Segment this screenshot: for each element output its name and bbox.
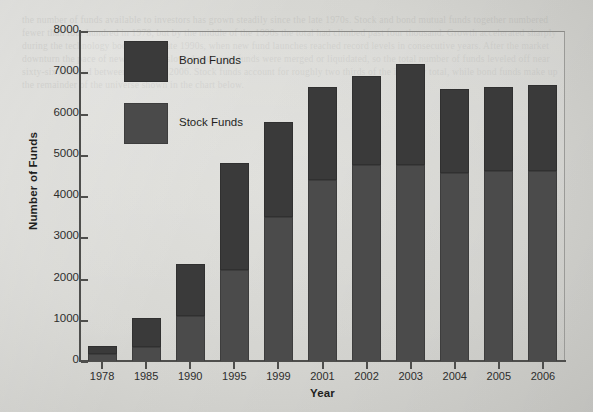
y-tick-label: 0 — [19, 353, 79, 365]
legend-swatch-bond-funds — [124, 41, 168, 82]
bar-stack[interactable] — [352, 76, 381, 361]
bar-segment-stock-funds[interactable] — [132, 347, 161, 361]
y-axis-title: Number of Funds — [27, 61, 39, 301]
bar-stack[interactable] — [484, 87, 513, 361]
y-tick-mark — [81, 361, 88, 363]
x-tick-mark — [145, 362, 147, 369]
bar-segment-stock-funds[interactable] — [176, 316, 205, 361]
bar-segment-bond-funds[interactable] — [132, 318, 161, 346]
bar-chart-figure: 010002000300040005000600070008000 Number… — [9, 9, 584, 403]
bar-segment-stock-funds[interactable] — [352, 165, 381, 361]
bar-stack[interactable] — [132, 318, 161, 361]
x-tick-mark — [277, 362, 279, 369]
bar-segment-bond-funds[interactable] — [308, 87, 337, 180]
bar-segment-stock-funds[interactable] — [308, 180, 337, 362]
bar-segment-stock-funds[interactable] — [88, 354, 117, 361]
bar-segment-bond-funds[interactable] — [440, 89, 469, 174]
bar-stack[interactable] — [264, 122, 293, 361]
bar-stack[interactable] — [396, 64, 425, 361]
bar-segment-bond-funds[interactable] — [484, 87, 513, 172]
bar-segment-stock-funds[interactable] — [440, 173, 469, 361]
x-tick-mark — [322, 362, 324, 369]
bar-stack[interactable] — [176, 264, 205, 361]
bar-stack[interactable] — [308, 87, 337, 361]
x-tick-mark — [101, 362, 103, 369]
x-tick-mark — [498, 362, 500, 369]
x-tick-mark — [189, 362, 191, 369]
bar-segment-stock-funds[interactable] — [396, 165, 425, 361]
legend-item-label: Stock Funds — [179, 116, 243, 128]
x-tick-label: 2006 — [517, 370, 569, 382]
bar-stack[interactable] — [220, 163, 249, 361]
x-tick-mark — [542, 362, 544, 369]
bar-segment-stock-funds[interactable] — [220, 270, 249, 361]
bar-segment-bond-funds[interactable] — [528, 85, 557, 172]
bar-segment-stock-funds[interactable] — [484, 171, 513, 361]
y-tick-label: 1000 — [19, 312, 79, 324]
bar-segment-bond-funds[interactable] — [352, 76, 381, 165]
bar-stack[interactable] — [528, 85, 557, 361]
y-tick-label: 8000 — [19, 23, 79, 35]
bar-segment-bond-funds[interactable] — [88, 346, 117, 354]
bar-segment-bond-funds[interactable] — [176, 264, 205, 316]
bar-stack[interactable] — [440, 89, 469, 361]
legend-item[interactable]: Bond Funds — [124, 41, 294, 81]
legend-item-label: Bond Funds — [179, 54, 241, 66]
x-tick-mark — [410, 362, 412, 369]
bar-segment-stock-funds[interactable] — [264, 217, 293, 361]
bar-stack[interactable] — [88, 346, 117, 361]
x-tick-mark — [233, 362, 235, 369]
bar-segment-bond-funds[interactable] — [396, 64, 425, 165]
x-tick-mark — [366, 362, 368, 369]
legend-swatch-stock-funds — [124, 103, 168, 144]
legend-item[interactable]: Stock Funds — [124, 103, 294, 143]
x-tick-mark — [454, 362, 456, 369]
bar-segment-stock-funds[interactable] — [528, 171, 557, 361]
bar-segment-bond-funds[interactable] — [220, 163, 249, 270]
x-axis-title: Year — [79, 387, 566, 399]
